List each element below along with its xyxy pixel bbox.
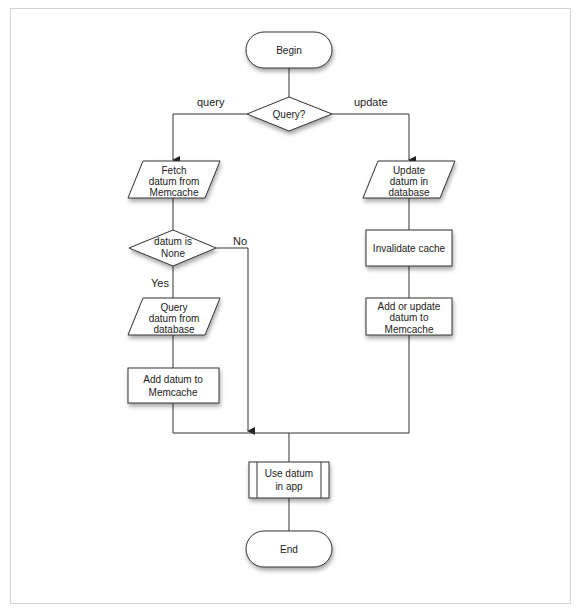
svg-text:Query: Query [160, 302, 187, 313]
svg-text:Add or update: Add or update [378, 301, 441, 312]
svg-text:Memcache: Memcache [150, 187, 199, 198]
svg-text:datum to: datum to [390, 312, 429, 323]
svg-text:Begin: Begin [276, 45, 302, 56]
svg-text:datum in: datum in [390, 176, 428, 187]
svg-text:Fetch: Fetch [161, 165, 186, 176]
node-fetch-datum: Fetch datum from Memcache [128, 161, 220, 198]
node-query-database: Query datum from database [128, 298, 220, 335]
node-end: End [246, 531, 332, 567]
node-datum-none-decision: datum is None [129, 230, 216, 266]
svg-text:datum from: datum from [149, 176, 200, 187]
edge-label-update: update [354, 96, 388, 108]
edge-label-query: query [197, 96, 225, 108]
node-add-update-memcache: Add or update datum to Memcache [366, 298, 452, 335]
svg-text:Memcache: Memcache [385, 324, 434, 335]
svg-text:None: None [161, 248, 185, 259]
svg-text:database: database [388, 187, 430, 198]
node-invalidate-cache: Invalidate cache [366, 230, 452, 266]
svg-text:Update: Update [393, 165, 426, 176]
svg-text:End: End [280, 544, 298, 555]
svg-text:datum from: datum from [149, 313, 200, 324]
svg-text:Query?: Query? [273, 109, 306, 120]
svg-text:Invalidate cache: Invalidate cache [373, 243, 446, 254]
node-query-decision: Query? [247, 97, 332, 131]
node-begin: Begin [246, 32, 332, 68]
node-update-database: Update datum in database [363, 161, 455, 198]
svg-text:in app: in app [275, 481, 303, 492]
svg-text:datum is: datum is [154, 236, 192, 247]
edge-label-no: No [233, 235, 247, 247]
svg-text:database: database [153, 324, 195, 335]
edge-label-yes: Yes [151, 277, 169, 289]
node-use-datum: Use datum in app [249, 462, 329, 498]
node-add-memcache: Add datum to Memcache [128, 368, 219, 403]
svg-text:Add datum to: Add datum to [143, 374, 203, 385]
svg-text:Use datum: Use datum [265, 468, 313, 479]
flowchart: query update No Yes Begin Query? Fetch d… [0, 0, 584, 614]
svg-text:Memcache: Memcache [149, 387, 198, 398]
